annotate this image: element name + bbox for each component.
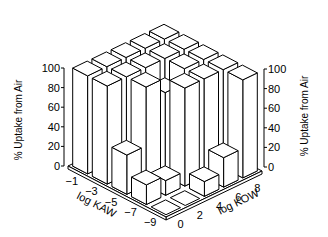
kow-tick-label: 2 [197,209,203,221]
z-tick-label-right: 100 [268,63,286,75]
z-tick-label-right: 40 [268,122,280,134]
z-tick-label-right: 20 [268,141,280,153]
z-tick-label-left: 20 [48,140,60,152]
z-tick-label-right: 0 [268,161,274,173]
bar-face-right [243,73,257,178]
z-tick-label-left: 0 [54,160,60,172]
bar-face-left [92,78,107,184]
z-tick-label-left: 60 [48,101,60,113]
z-tick-label-right: 80 [268,83,280,95]
z-tick-label-left: 100 [42,62,60,74]
z-axis-label-left: % Uptake from Air [13,79,24,160]
kow-tick-label: 0 [178,218,184,230]
z-tick-label-left: 80 [48,82,60,94]
z-axis-label-right: % Uptake from Air [299,75,310,156]
kaw-tick-label: −7 [124,206,137,218]
uptake-3d-bar-chart: 002020404060608080100100−1−3−5−7−902468 … [0,0,328,237]
bars [73,24,258,204]
kaw-tick-label: −9 [144,216,157,228]
kaw-tick-label: −1 [66,175,79,187]
chart-canvas: 002020404060608080100100−1−3−5−7−902468 … [0,0,328,237]
bar-face-left [73,68,88,174]
z-tick-label-left: 40 [48,121,60,133]
z-tick-label-right: 60 [268,102,280,114]
